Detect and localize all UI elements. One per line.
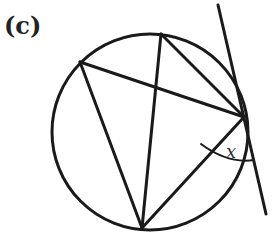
part-label: (c) [4, 11, 41, 40]
chord-c-d [142, 117, 244, 228]
chord-a-d [80, 62, 142, 228]
geometry-figure: (c) x [0, 0, 274, 236]
chord-a-c [80, 62, 244, 117]
angle-label-x: x [226, 141, 236, 162]
chord-b-d [142, 34, 161, 228]
